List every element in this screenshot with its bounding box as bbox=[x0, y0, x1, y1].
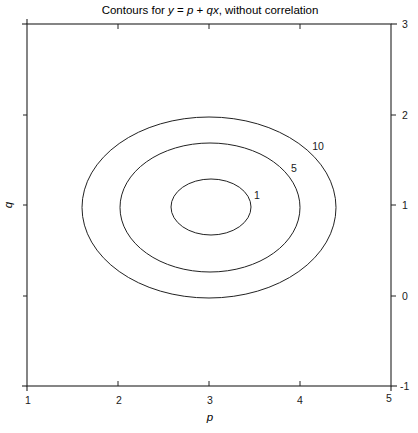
contour-level-5 bbox=[120, 143, 300, 272]
x-tick-label: 5 bbox=[386, 392, 392, 404]
y-axis-label: q bbox=[2, 201, 14, 208]
x-tick-label: 4 bbox=[297, 394, 303, 406]
y-tick-labels: 3 2 1 0 -1 bbox=[400, 18, 409, 392]
contour-labels: 1 5 10 bbox=[254, 140, 324, 201]
y-tick-label: 2 bbox=[402, 109, 408, 121]
contour-label-5: 5 bbox=[291, 162, 297, 174]
y-tick-label: 0 bbox=[402, 290, 408, 302]
y-tick-label: 1 bbox=[402, 199, 408, 211]
contour-chart: Contours for y = p + qx, without correla… bbox=[0, 0, 418, 433]
contour-level-1 bbox=[171, 179, 251, 235]
y-tick-label: -1 bbox=[400, 380, 409, 392]
y-tick-label: 3 bbox=[402, 18, 408, 30]
y-axis-ticks bbox=[23, 115, 396, 296]
x-tick-label: 3 bbox=[207, 394, 213, 406]
x-tick-label: 2 bbox=[116, 394, 122, 406]
contour-label-10: 10 bbox=[312, 140, 324, 152]
chart-title: Contours for y = p + qx, without correla… bbox=[102, 4, 319, 16]
contour-lines bbox=[82, 117, 336, 298]
x-axis-label: p bbox=[206, 411, 214, 423]
x-axis-ticks bbox=[118, 24, 300, 386]
x-tick-label: 1 bbox=[25, 394, 31, 406]
frame-corner-ticks bbox=[22, 19, 397, 391]
contour-label-1: 1 bbox=[254, 189, 260, 201]
x-tick-labels: 1 2 3 4 5 bbox=[25, 392, 392, 406]
